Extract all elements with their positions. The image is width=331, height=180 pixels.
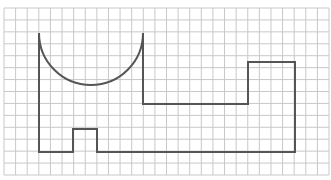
semicircle-arc xyxy=(39,33,143,85)
grid-lines xyxy=(4,8,329,175)
grid-diagram xyxy=(0,0,331,180)
